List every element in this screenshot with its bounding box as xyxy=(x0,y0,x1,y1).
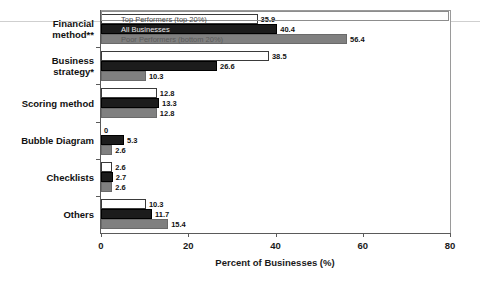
x-axis-title: Percent of Businesses (%) xyxy=(100,257,450,268)
x-tick-label: 0 xyxy=(98,240,103,251)
bar xyxy=(101,135,124,145)
legend-entry: All Businesses xyxy=(121,24,170,33)
bar-value-label: 56.4 xyxy=(350,34,365,43)
bar-value-label: 2.6 xyxy=(115,163,125,172)
category-label: Bubble Diagram xyxy=(2,135,94,146)
bar xyxy=(101,199,146,209)
bar xyxy=(101,182,112,192)
bar xyxy=(101,88,157,98)
bar-value-label: 11.7 xyxy=(155,210,169,219)
bar-value-label: 40.4 xyxy=(280,24,295,33)
x-tick xyxy=(450,233,451,237)
x-tick-label: 40 xyxy=(270,240,281,251)
y-tick xyxy=(96,122,100,123)
bar xyxy=(101,162,112,172)
bar-value-label: 0 xyxy=(104,126,108,135)
bar xyxy=(101,219,168,229)
bar xyxy=(101,51,269,61)
bar-value-label: 15.4 xyxy=(171,220,186,229)
x-tick xyxy=(101,233,102,237)
bar xyxy=(101,209,152,219)
plot-frame-right xyxy=(450,10,451,233)
x-tick-label: 80 xyxy=(445,240,456,251)
x-tick xyxy=(363,233,364,237)
y-tick xyxy=(96,159,100,160)
category-label: Checklists xyxy=(2,172,94,183)
bar xyxy=(101,172,113,182)
legend-entry: Top Performers (top 20%) xyxy=(121,14,207,23)
legend-entry: Poor Performers (bottom 20%) xyxy=(121,34,223,43)
x-tick xyxy=(276,233,277,237)
scan-artifact-right xyxy=(450,21,480,22)
bar xyxy=(101,108,157,118)
y-tick xyxy=(96,47,100,48)
bar-value-label: 2.7 xyxy=(116,173,126,182)
bar xyxy=(101,61,217,71)
bar xyxy=(101,145,112,155)
x-tick-label: 20 xyxy=(183,240,194,251)
bar-value-label: 10.3 xyxy=(149,200,164,209)
category-label: Others xyxy=(2,209,94,220)
y-tick xyxy=(96,84,100,85)
category-label: Financialmethod** xyxy=(2,18,94,40)
bar-value-label: 13.3 xyxy=(162,98,177,107)
bar-value-label: 12.8 xyxy=(160,88,175,97)
bar-value-label: 12.8 xyxy=(160,108,175,117)
bar-value-label: 2.6 xyxy=(115,146,125,155)
bar xyxy=(101,71,146,81)
category-label: Businessstrategy* xyxy=(2,55,94,77)
bar-value-label: 38.5 xyxy=(272,51,287,60)
bar-value-label: 10.3 xyxy=(149,71,164,80)
bar-value-label: 5.3 xyxy=(127,136,137,145)
bar xyxy=(101,98,159,108)
bar-value-label: 26.6 xyxy=(220,61,235,70)
x-tick xyxy=(188,233,189,237)
x-tick-label: 60 xyxy=(357,240,368,251)
y-tick xyxy=(96,196,100,197)
bar-value-label: 2.6 xyxy=(115,183,125,192)
category-label: Scoring method xyxy=(2,97,94,108)
bar-chart: Financialmethod**Businessstrategy*Scorin… xyxy=(0,0,480,284)
